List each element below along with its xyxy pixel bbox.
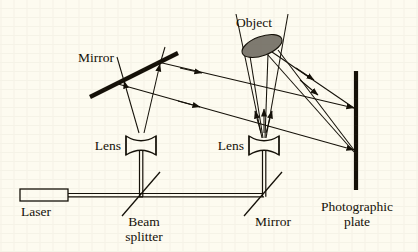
label-object: Object bbox=[236, 15, 272, 30]
lens-left bbox=[126, 136, 156, 155]
label-mirror-top: Mirror bbox=[78, 50, 114, 65]
label-mirror-bottom: Mirror bbox=[255, 214, 291, 229]
lens-right bbox=[249, 136, 279, 155]
beam-mirror-bottom-to-lens-right bbox=[263, 150, 266, 197]
beam-splitter-to-mirror-bottom bbox=[139, 194, 264, 197]
label-beam-splitter-line1: Beam bbox=[128, 214, 160, 229]
beam-laser-to-splitter bbox=[68, 194, 143, 197]
label-lens-left: Lens bbox=[95, 138, 121, 153]
label-lens-right: Lens bbox=[218, 138, 244, 153]
label-plate-line1: Photographic bbox=[321, 199, 393, 214]
holography-diagram: Object Mirror Lens Lens Laser Beam split… bbox=[0, 0, 418, 252]
laser-body bbox=[20, 189, 68, 201]
reference-ray-arrow-midpoints bbox=[178, 68, 202, 107]
object-shape bbox=[239, 30, 285, 62]
label-beam-splitter-line2: splitter bbox=[125, 229, 163, 244]
label-laser: Laser bbox=[21, 204, 51, 219]
reference-rays-to-mirror bbox=[124, 64, 160, 133]
object-scatter-rays bbox=[268, 50, 354, 152]
beam-splitter-to-lens-left bbox=[140, 150, 143, 197]
label-plate-line2: plate bbox=[344, 214, 370, 229]
